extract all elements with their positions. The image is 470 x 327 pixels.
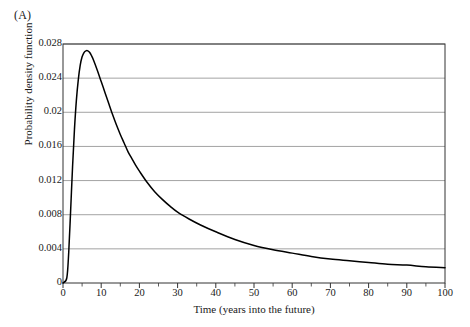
figure-panel-a: (A) Probability density function Time (y…: [0, 0, 470, 327]
gridlines: [63, 44, 445, 249]
plot-frame: [63, 44, 445, 283]
plot-area: [0, 0, 470, 327]
pdf-curve: [63, 51, 445, 283]
axis-ticks: [63, 283, 445, 288]
